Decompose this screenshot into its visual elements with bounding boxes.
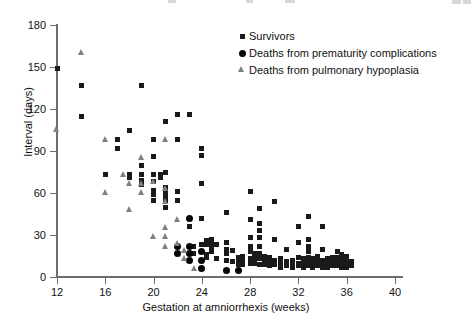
data-point-square [306,237,311,242]
data-point-square [151,192,156,197]
y-tick-mark [50,25,56,26]
y-tick-mark [50,277,56,278]
data-point-triangle [126,206,132,212]
data-point-square [139,163,144,168]
data-point-square [257,228,262,233]
data-point-triangle [138,154,144,160]
data-point-square [199,216,204,221]
data-point-square [151,198,156,203]
data-point-square [175,189,180,194]
data-point-triangle [120,171,126,177]
y-tick-mark [50,109,56,110]
data-point-circle [198,265,205,272]
data-point-square [199,146,204,151]
legend-item-survivors: Survivors [236,27,437,44]
data-point-square [272,199,277,204]
data-point-triangle [162,185,168,191]
x-tick-mark [250,278,251,284]
data-point-triangle [191,265,197,271]
x-tick-mark [395,278,396,284]
data-point-square [320,224,325,229]
data-point-circle [223,267,230,274]
data-point-square [248,189,253,194]
data-point-triangle [162,136,168,142]
crop-artifact [285,0,295,3]
data-point-square [127,128,132,133]
legend-item-deaths-prematurity: Deaths from prematurity complications [236,44,437,61]
data-point-square [175,198,180,203]
data-point-triangle [138,189,144,195]
data-point-square [151,137,156,142]
data-point-square [224,240,229,245]
data-point-square [224,210,229,215]
data-point-square [175,137,180,142]
data-point-circle [174,250,181,257]
legend-label-deaths-prematurity: Deaths from prematurity complications [249,47,437,59]
data-point-square [199,153,204,158]
data-point-square [139,172,144,177]
data-point-square [349,263,354,268]
data-point-square [158,175,163,180]
y-axis-label: Interval (days) [22,52,34,192]
data-point-square [79,83,84,88]
y-tick-mark [50,235,56,236]
data-point-circle [186,215,193,222]
crop-artifact [168,0,176,3]
crop-artifact [463,0,471,4]
y-tick-label: 0 [6,272,46,283]
data-point-triangle [174,240,180,246]
data-point-circle [235,267,242,274]
x-tick-label: 12 [37,287,77,298]
data-point-triangle [162,198,168,204]
data-point-triangle [162,243,168,249]
data-point-square [306,249,311,254]
data-point-triangle [181,247,187,253]
data-point-triangle [174,216,180,222]
legend-circle-icon [236,46,249,59]
data-point-square [248,235,253,240]
data-point-triangle [78,49,84,55]
x-tick-mark [105,278,106,284]
data-point-square [290,265,295,270]
data-point-square [230,248,235,253]
data-point-square [248,217,253,222]
crop-artifact [246,0,253,3]
data-point-triangle [138,180,144,186]
data-point-square [230,259,235,264]
data-point-square [224,251,229,256]
x-tick-label: 28 [230,287,270,298]
crop-artifacts [0,0,472,7]
x-tick-label: 36 [327,287,367,298]
data-point-square [175,112,180,117]
data-point-square [306,244,311,249]
x-tick-label: 32 [278,287,318,298]
data-point-square [187,112,192,117]
x-tick-label: 24 [182,287,222,298]
data-point-triangle [162,224,168,230]
data-point-square [257,221,262,226]
data-point-square [248,244,253,249]
data-point-square [306,214,311,219]
data-point-square [257,235,262,240]
data-point-square [240,262,245,267]
data-point-square [224,258,229,263]
y-tick-label: 180 [6,20,46,31]
crop-artifact [452,0,461,4]
data-point-triangle [53,126,59,132]
data-point-square [151,154,156,159]
data-point-triangle [102,136,108,142]
data-point-square [163,205,168,210]
data-point-square [284,263,289,268]
legend-item-deaths-pulmonary: Deaths from pulmonary hypoplasia [236,61,437,78]
data-point-square [272,262,277,267]
data-point-square [163,170,168,175]
data-point-square [257,206,262,211]
data-point-square [79,114,84,119]
data-point-square [278,265,283,270]
data-point-square [115,137,120,142]
data-point-square [320,247,325,252]
legend-triangle-icon [236,63,249,76]
data-point-square [103,172,108,177]
data-point-triangle [126,180,132,186]
scatter-plot-figure: 0306090120150180 1216202428323640 Interv… [0,0,472,318]
